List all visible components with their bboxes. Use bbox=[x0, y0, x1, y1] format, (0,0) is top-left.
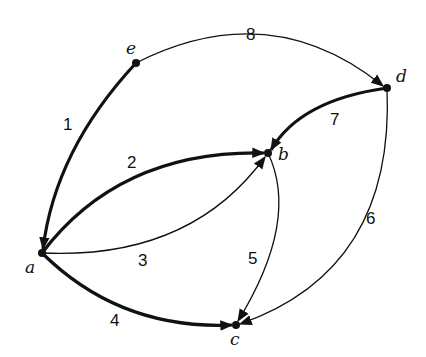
node-d-dot bbox=[383, 84, 391, 92]
node-label-e: e bbox=[126, 38, 136, 58]
edge-label-1: 1 bbox=[63, 115, 72, 134]
graph-canvas: a b c d e 1 2 3 4 5 6 7 8 bbox=[0, 0, 426, 357]
node-label-c: c bbox=[230, 329, 240, 349]
edge-4 bbox=[42, 253, 232, 325]
edge-8 bbox=[136, 34, 383, 86]
edge-label-3: 3 bbox=[138, 251, 147, 270]
node-label-b: b bbox=[278, 144, 289, 164]
edge-3 bbox=[42, 157, 265, 253]
edge-2 bbox=[42, 153, 264, 253]
node-e-dot bbox=[132, 59, 140, 67]
edge-label-8: 8 bbox=[246, 25, 255, 44]
edge-6 bbox=[240, 88, 387, 324]
edge-1 bbox=[43, 63, 136, 249]
edge-label-2: 2 bbox=[127, 153, 136, 172]
edge-label-7: 7 bbox=[330, 110, 339, 129]
edge-7 bbox=[271, 88, 387, 150]
node-b-dot bbox=[264, 149, 272, 157]
node-label-d: d bbox=[396, 66, 407, 86]
edge-label-6: 6 bbox=[366, 209, 375, 228]
node-a-dot bbox=[38, 249, 46, 257]
edge-label-4: 4 bbox=[110, 311, 119, 330]
node-label-a: a bbox=[25, 257, 35, 277]
edge-5 bbox=[238, 153, 279, 321]
node-c-dot bbox=[232, 321, 240, 329]
edge-label-5: 5 bbox=[248, 249, 257, 268]
